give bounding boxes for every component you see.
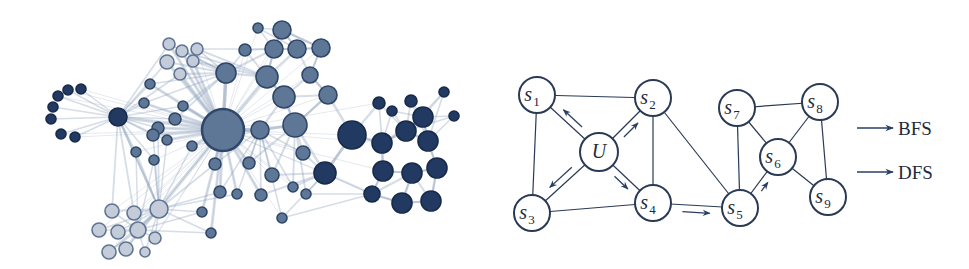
legend: BFS DFS xyxy=(857,118,933,183)
network-node-dark xyxy=(109,108,127,126)
network-node-medium xyxy=(214,186,226,198)
legend-dfs: DFS xyxy=(857,162,933,183)
network-node-dark xyxy=(396,121,416,141)
network-edge xyxy=(138,230,211,233)
graph-node-s7: s7 xyxy=(719,90,755,126)
network-node-medium xyxy=(216,63,236,83)
network-node-dark xyxy=(314,162,336,184)
network-node-dark xyxy=(63,85,73,95)
network-node-medium xyxy=(296,146,310,160)
network-node-medium xyxy=(277,213,287,223)
network-node-light xyxy=(187,55,199,67)
network-node-light xyxy=(102,245,116,259)
graph-node-s9: s9 xyxy=(810,179,846,215)
network-node-medium xyxy=(273,86,295,108)
network-node-light xyxy=(130,222,146,238)
network-node-dark xyxy=(372,133,392,153)
network-node-dark xyxy=(56,129,66,139)
network-node-dark xyxy=(392,193,412,213)
network-node-dark xyxy=(427,158,447,178)
network-node-dark xyxy=(405,95,417,107)
network-node-dark xyxy=(48,102,58,112)
network-node-medium xyxy=(255,189,267,201)
network-node-dark xyxy=(413,107,433,127)
graph-node-U: U xyxy=(580,133,618,171)
network-node-medium xyxy=(239,44,251,56)
network-node-light xyxy=(105,204,119,218)
network-node-dark xyxy=(76,84,86,94)
network-node-medium xyxy=(273,21,291,39)
graph-node-s5: s5 xyxy=(722,190,758,226)
graph-node-s4: s4 xyxy=(635,185,671,221)
network-node-medium xyxy=(145,79,155,89)
network-node-dark xyxy=(439,87,449,97)
network-node-medium xyxy=(149,155,159,165)
network-node-medium xyxy=(302,67,318,83)
network-node-dark xyxy=(53,91,63,101)
network-node-dark xyxy=(373,97,385,109)
network-edge xyxy=(51,117,118,119)
network-node-medium xyxy=(169,113,181,125)
network-node-dark xyxy=(338,121,366,149)
network-node-medium xyxy=(243,157,255,169)
network-node-dark xyxy=(421,191,441,211)
network-node-dark xyxy=(373,161,393,181)
node-label-U: U xyxy=(592,140,608,162)
network-node-light xyxy=(119,242,133,256)
network-node-medium xyxy=(162,135,172,145)
network-edge xyxy=(112,117,118,211)
network-node-dark xyxy=(449,111,459,121)
network-node-dark xyxy=(46,114,56,124)
network-node-medium xyxy=(206,228,216,238)
graph-node-s2: s2 xyxy=(635,80,671,116)
network-node-medium xyxy=(202,109,244,151)
dfs-arrow-s4-s5 xyxy=(682,212,709,214)
network-visualization xyxy=(0,0,480,269)
network-node-medium xyxy=(265,40,283,58)
network-node-light xyxy=(111,225,125,239)
network-node-medium xyxy=(131,147,141,157)
network-node-medium xyxy=(265,168,279,182)
legend-bfs: BFS xyxy=(857,118,932,139)
network-node-dark xyxy=(402,163,422,183)
network-node-light xyxy=(160,55,174,69)
network-node-dark xyxy=(387,106,397,116)
network-node-light xyxy=(176,45,188,57)
network-node-light xyxy=(191,43,203,55)
legend-dfs-label: DFS xyxy=(898,162,933,183)
graph-node-s3: s3 xyxy=(514,195,550,231)
network-node-medium xyxy=(256,66,278,88)
graph-node-s1: s1 xyxy=(519,77,555,113)
network-edge xyxy=(282,194,372,218)
network-node-medium xyxy=(288,182,298,192)
network-node-medium xyxy=(283,113,307,137)
legend-bfs-label: BFS xyxy=(898,118,932,139)
network-node-dark xyxy=(70,132,80,142)
network-node-light xyxy=(174,68,186,80)
search-graph-diagram: s1s2Us3s4s5s6s7s8s9 BFS DFS xyxy=(480,0,969,269)
dfs-arrow-s5-s6 xyxy=(761,182,768,191)
network-node-medium xyxy=(178,101,188,111)
bfs-arrow-U-s3 xyxy=(550,167,572,187)
network-node-dark xyxy=(418,131,438,151)
network-node-medium xyxy=(187,141,197,151)
network-node-light xyxy=(127,206,141,220)
bfs-arrow-U-s1 xyxy=(563,110,582,127)
network-node-light xyxy=(140,247,150,257)
network-node-dark xyxy=(364,186,380,202)
network-node-light xyxy=(149,232,161,244)
network-node-medium xyxy=(301,189,311,199)
network-node-medium xyxy=(139,98,149,108)
graph-node-s8: s8 xyxy=(802,84,838,120)
network-node-medium xyxy=(251,121,269,139)
network-node-medium xyxy=(232,189,242,199)
network-node-medium xyxy=(288,40,306,58)
network-node-light xyxy=(92,223,106,237)
network-node-light xyxy=(163,38,175,50)
network-node-medium xyxy=(197,207,207,217)
network-node-medium xyxy=(147,129,159,141)
network-node-medium xyxy=(312,39,330,57)
network-node-light xyxy=(150,200,168,218)
graph-nodes: s1s2Us3s4s5s6s7s8s9 xyxy=(514,77,846,231)
network-node-medium xyxy=(209,158,221,170)
